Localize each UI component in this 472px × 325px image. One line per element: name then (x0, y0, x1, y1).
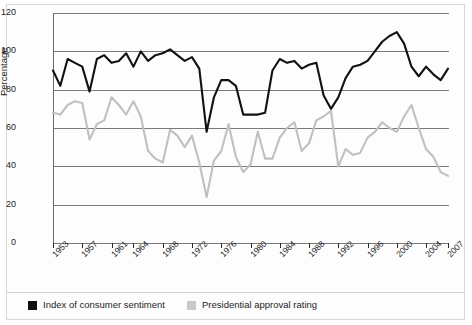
y-axis-tick-label: 80 (0, 85, 16, 94)
y-axis-tick-label: 100 (0, 46, 16, 55)
grey-square-swatch-icon (187, 301, 196, 310)
chart-page: Percentage 020406080100120 1953195719611… (0, 0, 472, 325)
y-axis-tick-label: 40 (0, 161, 16, 170)
series-line-presidential-approval-rating (53, 97, 448, 197)
chart-legend: Index of consumer sentiment Presidential… (28, 300, 317, 310)
data-series-layer (53, 13, 448, 243)
legend-item-presidential-approval-rating: Presidential approval rating (187, 300, 317, 310)
series-line-index-of-consumer-sentiment (53, 32, 448, 132)
legend-label: Presidential approval rating (202, 300, 317, 310)
y-axis-tick-label: 60 (0, 123, 16, 132)
black-square-swatch-icon (28, 301, 37, 310)
legend-item-index-of-consumer-sentiment: Index of consumer sentiment (28, 300, 165, 310)
y-axis-tick-label: 20 (0, 200, 16, 209)
legend-label: Index of consumer sentiment (43, 300, 165, 310)
y-axis-tick-label: 120 (0, 8, 16, 17)
gridline (54, 243, 449, 244)
legend-separator (7, 292, 464, 293)
y-axis-tick-label: 0 (0, 238, 16, 247)
line-chart-figure: Percentage 020406080100120 1953195719611… (0, 0, 472, 325)
